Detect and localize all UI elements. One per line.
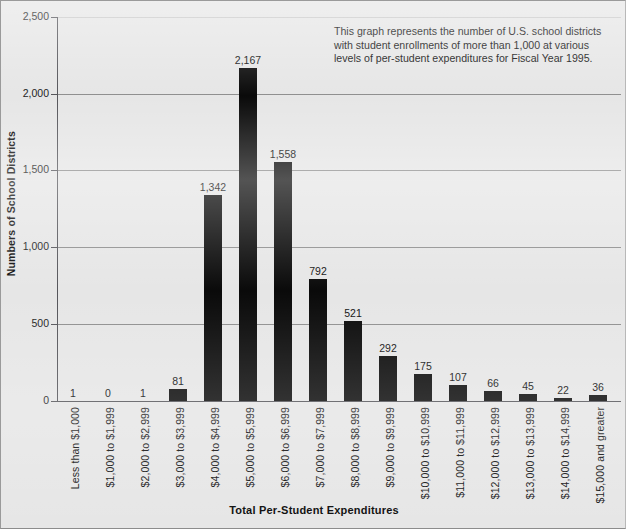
y-tick-500 xyxy=(51,324,58,325)
x-tick-label-3: $3,000 to $3,999 xyxy=(174,407,186,487)
bar-12 xyxy=(484,391,502,401)
gridline-1000 xyxy=(58,247,621,248)
annotation-line-2: with student enrollments of more than 1,… xyxy=(334,39,616,53)
x-tick-label-8: $8,000 to $8,999 xyxy=(349,407,361,487)
gridline-1500 xyxy=(58,170,621,171)
y-axis-line xyxy=(57,17,58,402)
y-tick-label-2000: 2,000 xyxy=(3,87,49,99)
bar-value-2: 1 xyxy=(121,387,165,399)
y-tick-1000 xyxy=(51,247,58,248)
y-axis-title: Numbers of School Districts xyxy=(5,131,17,276)
bar-value-9: 292 xyxy=(366,342,410,354)
gridline-2500 xyxy=(58,17,621,18)
bar-value-3: 81 xyxy=(156,375,200,387)
bar-6 xyxy=(274,162,292,401)
chart-figure: 1 0 1 81 1,342 2,167 1,558 792 521 292 1… xyxy=(0,0,626,529)
x-tick-label-12: $12,000 to $12,999 xyxy=(489,407,501,499)
chart-annotation: This graph represents the number of U.S.… xyxy=(334,25,616,66)
x-tick-label-2: $2,000 to $2,999 xyxy=(139,407,151,487)
x-tick-label-13: $13,000 to $13,999 xyxy=(524,407,536,499)
x-tick-label-4: $4,000 to $4,999 xyxy=(209,407,221,487)
bar-value-7: 792 xyxy=(296,265,340,277)
y-tick-label-500: 500 xyxy=(3,317,49,329)
bar-3 xyxy=(169,389,187,401)
y-tick-2000 xyxy=(51,94,58,95)
bar-value-6: 1,558 xyxy=(261,148,305,160)
bar-5 xyxy=(239,68,257,401)
gridline-2000 xyxy=(58,94,621,95)
x-tick-label-14: $14,000 to $14,999 xyxy=(559,407,571,499)
x-tick-label-0: Less than $1,000 xyxy=(69,407,81,489)
x-tick-label-1: $1,000 to $1,999 xyxy=(104,407,116,487)
bar-value-15: 36 xyxy=(576,381,620,393)
gridline-500 xyxy=(58,324,621,325)
bar-value-5: 2,167 xyxy=(226,54,270,66)
y-tick-label-0: 0 xyxy=(3,394,49,406)
x-tick-label-15: $15,000 and greater xyxy=(594,407,606,503)
x-tick-label-6: $6,000 to $6,999 xyxy=(279,407,291,487)
annotation-line-3: levels of per-student expenditures for F… xyxy=(334,52,616,66)
x-axis-line xyxy=(58,401,621,402)
x-tick-label-5: $5,000 to $5,999 xyxy=(244,407,256,487)
y-tick-0 xyxy=(51,401,58,402)
x-axis-title: Total Per-Student Expenditures xyxy=(1,504,626,516)
bar-value-8: 521 xyxy=(331,307,375,319)
y-tick-label-2500: 2,500 xyxy=(3,10,49,22)
bar-13 xyxy=(519,394,537,401)
bar-10 xyxy=(414,374,432,401)
x-tick-label-10: $10,000 to $10,999 xyxy=(419,407,431,499)
annotation-line-1: This graph represents the number of U.S.… xyxy=(334,25,616,39)
x-tick-label-9: $9,000 to $9,999 xyxy=(384,407,396,487)
y-tick-1500 xyxy=(51,170,58,171)
plot-area: 1 0 1 81 1,342 2,167 1,558 792 521 292 1… xyxy=(58,17,621,401)
bar-8 xyxy=(344,321,362,401)
bar-4 xyxy=(204,195,222,401)
bar-7 xyxy=(309,279,327,401)
x-tick-label-7: $7,000 to $7,999 xyxy=(314,407,326,487)
bar-11 xyxy=(449,385,467,401)
y-tick-2500 xyxy=(51,17,58,18)
bar-value-4: 1,342 xyxy=(191,181,235,193)
x-tick-label-11: $11,000 to $11,999 xyxy=(454,407,466,498)
bar-9 xyxy=(379,356,397,401)
